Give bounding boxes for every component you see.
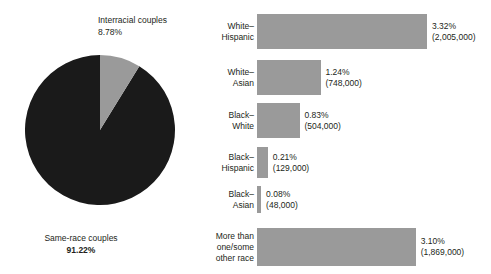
bar-value-label: 3.32%(2,005,000) <box>432 21 475 43</box>
bar-rect <box>257 14 427 49</box>
bar-row: Black–White0.83%(504,000) <box>196 103 491 138</box>
bar-category-label-line: White– <box>188 67 254 78</box>
bar-category-label-line: White– <box>188 21 254 32</box>
bar-value-label: 0.21%(129,000) <box>273 152 309 174</box>
interracial-couples-figure: Interracial couples 8.78% Same-race coup… <box>0 0 491 274</box>
bar-rect <box>257 103 300 138</box>
bar-category-label-line: other race <box>188 253 254 264</box>
bar-category-label-line: Hispanic <box>188 163 254 174</box>
pie-label-same-race-percent: 91.22% <box>22 244 140 256</box>
bar-row: Black–Hispanic0.21%(129,000) <box>196 147 491 178</box>
bar-category-label-line: Black– <box>188 152 254 163</box>
bar-value-percent: 3.10% <box>421 236 445 246</box>
bar-category-label-line: one/some <box>188 242 254 253</box>
bar-category-label: White–Asian <box>188 67 254 89</box>
pie-chart-panel: Interracial couples 8.78% Same-race coup… <box>0 0 200 274</box>
bar-row: White–Hispanic3.32%(2,005,000) <box>196 14 491 49</box>
pie-chart <box>25 55 175 205</box>
pie-label-interracial: Interracial couples 8.78% <box>98 14 167 38</box>
bar-category-label: Black–Hispanic <box>188 152 254 174</box>
bar-value-count: (48,000) <box>266 200 298 211</box>
bar-value-count: (748,000) <box>326 78 362 89</box>
bar-value-percent: 1.24% <box>326 67 350 77</box>
bar-chart-panel: White–Hispanic3.32%(2,005,000)White–Asia… <box>196 0 491 274</box>
bar-rect <box>257 228 416 266</box>
bar-value-percent: 0.21% <box>273 152 297 162</box>
bar-value-percent: 0.83% <box>305 110 329 120</box>
bar-category-label-line: More than <box>188 231 254 242</box>
bar-category-label: Black–White <box>188 110 254 132</box>
bar-category-label-line: Asian <box>188 200 254 211</box>
bar-category-label: White–Hispanic <box>188 21 254 43</box>
bar-category-label: Black–Asian <box>188 189 254 211</box>
pie-label-same-race: Same-race couples 91.22% <box>22 232 140 256</box>
bar-row: White–Asian1.24%(748,000) <box>196 60 491 95</box>
bar-category-label-line: Hispanic <box>188 32 254 43</box>
bar-value-label: 0.08%(48,000) <box>266 189 298 211</box>
bar-category-label-line: Black– <box>188 189 254 200</box>
bar-value-label: 1.24%(748,000) <box>326 67 362 89</box>
bar-row: Black–Asian0.08%(48,000) <box>196 186 491 213</box>
bar-value-count: (2,005,000) <box>432 32 475 43</box>
bar-row: More thanone/someother race3.10%(1,869,0… <box>196 228 491 266</box>
bar-value-label: 0.83%(504,000) <box>305 110 341 132</box>
bar-value-percent: 3.32% <box>432 21 456 31</box>
bar-category-label: More thanone/someother race <box>188 231 254 264</box>
pie-slice-same-race <box>25 55 175 205</box>
bar-rect <box>257 186 261 213</box>
bar-rect <box>257 147 268 178</box>
pie-label-interracial-text: Interracial couples <box>98 15 167 25</box>
bar-value-percent: 0.08% <box>266 189 290 199</box>
bar-value-label: 3.10%(1,869,000) <box>421 236 464 258</box>
bar-category-label-line: Asian <box>188 78 254 89</box>
pie-label-interracial-percent: 8.78% <box>98 26 167 38</box>
pie-label-same-race-text: Same-race couples <box>44 233 117 243</box>
bar-rect <box>257 60 321 95</box>
bar-category-label-line: Black– <box>188 110 254 121</box>
bar-value-count: (129,000) <box>273 163 309 174</box>
bar-value-count: (504,000) <box>305 121 341 132</box>
bar-category-label-line: White <box>188 121 254 132</box>
bar-value-count: (1,869,000) <box>421 247 464 258</box>
